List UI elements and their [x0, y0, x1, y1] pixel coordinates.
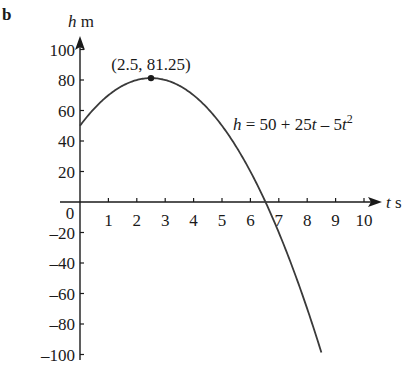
parabola-chart: 1234567891010080604020–20–40–60–80–1000(… — [0, 0, 413, 370]
labels: 1234567891010080604020–20–40–60–80–1000(… — [2, 5, 402, 365]
x-tick-label: 1 — [104, 211, 113, 230]
y-tick-label: –40 — [49, 254, 76, 273]
y-tick-label: 60 — [58, 102, 75, 121]
y-tick-label: –20 — [49, 224, 76, 243]
part-label: b — [2, 5, 11, 24]
y-tick-label: –60 — [49, 285, 76, 304]
x-tick-label: 10 — [356, 211, 373, 230]
x-axis-title: t s — [386, 193, 402, 212]
y-tick-label: 80 — [58, 71, 75, 90]
y-axis-title: h m — [68, 12, 94, 31]
equation-label: h = 50 + 25t – 5t2 — [233, 112, 353, 134]
x-tick-label: 3 — [161, 211, 170, 230]
x-tick-label: 8 — [303, 211, 312, 230]
x-tick-label: 9 — [331, 211, 340, 230]
origin-label: 0 — [66, 204, 75, 223]
x-tick-label: 6 — [246, 211, 255, 230]
x-tick-label: 2 — [133, 211, 142, 230]
y-tick-label: –80 — [49, 315, 76, 334]
x-tick-label: 7 — [275, 211, 284, 230]
vertex-label: (2.5, 81.25) — [111, 55, 190, 74]
y-tick-label: 40 — [58, 132, 75, 151]
x-tick-label: 4 — [189, 211, 198, 230]
y-tick-label: 100 — [50, 41, 76, 60]
y-tick-label: –100 — [40, 346, 75, 365]
vertex-point — [148, 75, 154, 81]
y-tick-label: 20 — [58, 163, 75, 182]
x-tick-label: 5 — [218, 211, 227, 230]
